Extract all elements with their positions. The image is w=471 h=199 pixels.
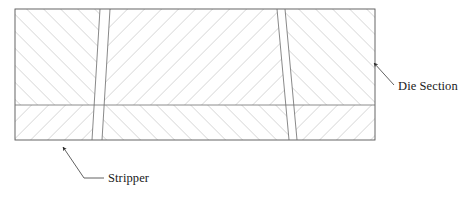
hatch-fill-group xyxy=(10,5,385,148)
die-section-figure: Die Section Stripper xyxy=(0,0,471,199)
callout-stripper: Stripper xyxy=(63,147,150,185)
stripper-leader-diagonal xyxy=(63,147,84,178)
die-section-leader-line xyxy=(374,63,394,85)
callout-die-section: Die Section xyxy=(374,63,458,93)
stripper-label: Stripper xyxy=(108,171,150,185)
diagram-canvas: Die Section Stripper xyxy=(0,0,471,199)
die-section-label: Die Section xyxy=(398,79,458,93)
